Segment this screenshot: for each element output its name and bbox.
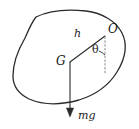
label-distance-h: h [74,28,81,39]
label-centre-of-gravity-g: G [56,55,66,67]
label-point-o: O [108,23,118,35]
angle-arc-theta [99,51,105,55]
weight-vector-arrowhead [66,108,73,117]
figure-canvas [0,0,139,129]
physics-figure: O h θ G mg [0,0,139,129]
label-angle-theta: θ [92,44,99,55]
label-weight-mg: mg [78,110,95,121]
